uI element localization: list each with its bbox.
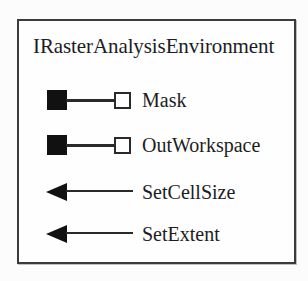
method-arrow-icon — [40, 222, 135, 246]
member-label-setextent: SetExtent — [142, 222, 220, 246]
member-label-setcellsize: SetCellSize — [142, 180, 235, 204]
member-row-mask[interactable]: Mask — [40, 85, 288, 115]
interface-title: IRasterAnalysisEnvironment — [33, 34, 291, 58]
arrow-head-icon — [46, 183, 67, 201]
member-row-setcellsize[interactable]: SetCellSize — [40, 177, 288, 207]
filled-square-icon — [47, 135, 67, 155]
member-row-setextent[interactable]: SetExtent — [40, 219, 288, 249]
member-label-mask: Mask — [142, 88, 186, 112]
hollow-square-icon — [114, 137, 131, 154]
diagram-canvas: IRasterAnalysisEnvironment Mask OutWorks… — [0, 0, 308, 281]
hollow-square-icon — [114, 92, 131, 109]
arrow-head-icon — [46, 225, 67, 243]
property-link-line — [66, 144, 115, 147]
member-label-outworkspace: OutWorkspace — [142, 133, 260, 157]
property-readwrite-icon — [40, 133, 135, 157]
property-readwrite-icon — [40, 88, 135, 112]
arrow-shaft-line — [66, 190, 133, 192]
arrow-shaft-line — [66, 232, 133, 234]
filled-square-icon — [47, 90, 67, 110]
member-row-outworkspace[interactable]: OutWorkspace — [40, 130, 288, 160]
property-link-line — [66, 99, 115, 102]
method-arrow-icon — [40, 180, 135, 204]
